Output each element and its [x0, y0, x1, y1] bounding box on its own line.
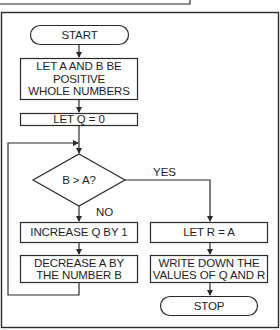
- init-line-2: POSITIVE: [53, 73, 105, 86]
- start-label: START: [61, 29, 97, 42]
- stop-terminal: STOP: [160, 296, 258, 316]
- write-line-2: VALUES OF Q AND R: [153, 269, 265, 282]
- increase-q-box: INCREASE Q BY 1: [20, 222, 138, 243]
- increase-q-label: INCREASE Q BY 1: [30, 226, 127, 239]
- init-box: LET A AND B BE POSITIVE WHOLE NUMBERS: [20, 58, 138, 100]
- write-values-box: WRITE DOWN THE VALUES OF Q AND R: [150, 255, 268, 283]
- set-r-box: LET R = A: [150, 222, 268, 243]
- set-q-box: LET Q = 0: [20, 113, 138, 126]
- decision-label: B > A?: [62, 174, 96, 187]
- init-line-1: LET A AND B BE: [36, 60, 121, 73]
- decrease-a-box: DECREASE A BY THE NUMBER B: [20, 255, 138, 283]
- set-r-label: LET R = A: [183, 226, 235, 239]
- decrease-a-line-1: DECREASE A BY: [34, 257, 124, 270]
- set-q-label: LET Q = 0: [53, 113, 105, 126]
- flowchart: START LET A AND B BE POSITIVE WHOLE NUMB…: [0, 0, 280, 330]
- decrease-a-line-2: THE NUMBER B: [36, 269, 122, 282]
- yes-label: YES: [153, 166, 176, 178]
- decision-diamond: B > A?: [33, 170, 125, 190]
- stop-label: STOP: [194, 300, 225, 313]
- init-line-3: WHOLE NUMBERS: [28, 85, 130, 98]
- write-line-1: WRITE DOWN THE: [158, 257, 259, 270]
- no-label: NO: [96, 206, 113, 218]
- start-terminal: START: [30, 25, 129, 45]
